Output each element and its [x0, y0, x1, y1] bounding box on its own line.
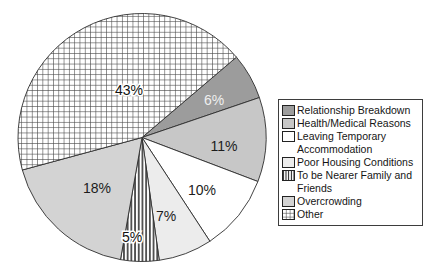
- legend-swatch-poor-housing-conditions: [282, 157, 295, 168]
- legend-item-overcrowding: Overcrowding: [282, 195, 420, 208]
- legend-item-label: Leaving Temporary Accommodation: [297, 130, 420, 156]
- legend-item-to-be-nearer-family-and-friends: To be Nearer Family and Friends: [282, 169, 420, 195]
- legend: Relationship BreakdownHealth/Medical Rea…: [278, 99, 423, 226]
- legend-item-other: Other: [282, 208, 420, 221]
- legend-swatch-leaving-temporary-accommodation: [282, 131, 295, 142]
- pie-slice-label-relationship-breakdown: 6%: [204, 92, 224, 108]
- legend-item-health-medical-reasons: Health/Medical Reasons: [282, 117, 420, 130]
- legend-swatch-other: [282, 209, 295, 220]
- legend-item-label: Health/Medical Reasons: [297, 117, 420, 130]
- pie-slice-label-to-be-nearer-family-and-friends: 5%: [122, 229, 142, 245]
- legend-item-label: To be Nearer Family and Friends: [297, 169, 420, 195]
- legend-item-relationship-breakdown: Relationship Breakdown: [282, 104, 420, 117]
- figure: 6%11%10%7%5%18%43% Relationship Breakdow…: [0, 0, 441, 268]
- pie-slice-label-overcrowding: 18%: [83, 180, 111, 196]
- legend-item-label: Poor Housing Conditions: [297, 156, 420, 169]
- legend-item-leaving-temporary-accommodation: Leaving Temporary Accommodation: [282, 130, 420, 156]
- legend-item-label: Overcrowding: [297, 195, 420, 208]
- pie-slice-label-poor-housing-conditions: 7%: [156, 208, 176, 224]
- legend-swatch-health-medical-reasons: [282, 118, 295, 129]
- legend-swatch-to-be-nearer-family-and-friends: [282, 170, 295, 181]
- legend-swatch-overcrowding: [282, 196, 295, 207]
- pie-slice-label-health-medical-reasons: 11%: [211, 138, 238, 154]
- pie-slice-label-leaving-temporary-accommodation: 10%: [188, 182, 216, 198]
- pie-slice-label-other: 43%: [115, 82, 143, 98]
- legend-item-label: Other: [297, 208, 420, 221]
- legend-item-label: Relationship Breakdown: [297, 104, 420, 117]
- legend-item-poor-housing-conditions: Poor Housing Conditions: [282, 156, 420, 169]
- legend-swatch-relationship-breakdown: [282, 105, 295, 116]
